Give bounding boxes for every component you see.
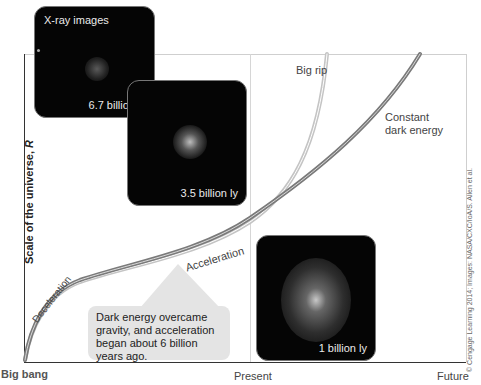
xray-panel-3-5: 3.5 billion ly xyxy=(127,80,247,206)
panel-caption: 3.5 billion ly xyxy=(181,187,238,199)
xray-panel-1: 1 billion ly xyxy=(256,235,376,361)
big-rip-label: Big rip xyxy=(296,64,327,76)
y-axis-label: Scale of the universe, R xyxy=(23,127,35,277)
constant-label-line2: dark energy xyxy=(385,124,443,137)
constant-label-line1: Constant xyxy=(385,111,443,124)
x-label-future: Future xyxy=(437,370,469,382)
acceleration-callout: Dark energy overcame gravity, and accele… xyxy=(88,306,230,360)
star-dot xyxy=(37,49,40,52)
x-label-big-bang: Big bang xyxy=(1,368,48,380)
constant-dark-energy-label: Constant dark energy xyxy=(385,111,443,137)
cluster-glow xyxy=(85,57,109,81)
callout-pointer xyxy=(120,262,230,312)
panel-caption: 1 billion ly xyxy=(319,342,367,354)
x-label-present: Present xyxy=(234,370,272,382)
cluster-glow xyxy=(281,258,351,342)
cluster-glow xyxy=(173,125,207,159)
xray-images-title: X-ray images xyxy=(44,14,109,26)
image-credit: © Cengage Learning 2014; Images: NASA/CX… xyxy=(466,172,473,372)
